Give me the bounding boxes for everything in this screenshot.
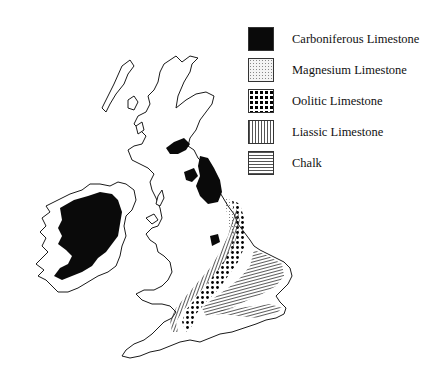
legend-item-chalk: Chalk [248,151,438,182]
carboniferous-swatch [248,27,274,51]
legend: Carboniferous Limestone Magnesium Limest… [248,27,438,182]
legend-label: Magnesium Limestone [292,63,407,78]
island-outline [128,96,138,110]
legend-item-magnesium: Magnesium Limestone [248,58,438,89]
legend-label: Oolitic Limestone [292,94,383,109]
legend-item-liassic: Liassic Limestone [248,120,438,151]
legend-item-oolitic: Oolitic Limestone [248,89,438,120]
legend-label: Chalk [292,156,322,171]
magnesium-swatch [248,58,274,82]
anglesey-outline [146,214,158,224]
legend-label: Carboniferous Limestone [292,32,419,47]
legend-item-carboniferous: Carboniferous Limestone [248,27,438,58]
liassic-swatch [248,120,274,144]
legend-label: Liassic Limestone [292,125,383,140]
oolitic-swatch [248,89,274,113]
chalk-swatch [248,151,274,175]
